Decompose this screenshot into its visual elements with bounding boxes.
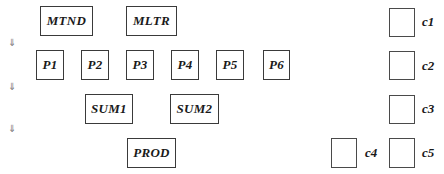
node-label: MTND [47, 13, 86, 29]
node-sum2: SUM2 [170, 94, 219, 124]
node-prod: PROD [127, 138, 176, 168]
node-label: MLTR [133, 13, 170, 29]
node-label: P4 [177, 57, 192, 73]
node-p1: P1 [36, 50, 64, 80]
checkbox-c1[interactable] [389, 8, 415, 37]
node-p4: P4 [171, 50, 199, 80]
node-label: P5 [222, 57, 237, 73]
node-sum1: SUM1 [85, 94, 133, 124]
node-label: P6 [269, 57, 284, 73]
node-label: P1 [42, 57, 57, 73]
checkbox-c5[interactable] [389, 138, 415, 168]
node-label: SUM1 [91, 101, 127, 117]
down-arrow-icon: ⇓ [8, 123, 16, 134]
node-mltr: MLTR [126, 6, 177, 36]
down-arrow-icon: ⇓ [8, 81, 16, 92]
node-p2: P2 [81, 50, 109, 80]
node-label: SUM2 [177, 101, 213, 117]
down-arrow-icon: ⇓ [8, 37, 16, 48]
checkbox-c4[interactable] [331, 138, 357, 168]
node-label: P3 [132, 57, 147, 73]
node-p6: P6 [263, 50, 290, 80]
label-c1: c1 [422, 14, 434, 30]
label-c2: c2 [422, 58, 434, 74]
node-p3: P3 [126, 50, 154, 80]
label-c5: c5 [422, 145, 434, 161]
node-label: P2 [87, 57, 102, 73]
node-p5: P5 [216, 50, 244, 80]
label-c3: c3 [422, 101, 434, 117]
checkbox-c2[interactable] [389, 51, 415, 80]
checkbox-c3[interactable] [389, 95, 415, 124]
label-c4: c4 [365, 145, 377, 161]
node-mtnd: MTND [40, 6, 93, 36]
node-label: PROD [133, 145, 170, 161]
